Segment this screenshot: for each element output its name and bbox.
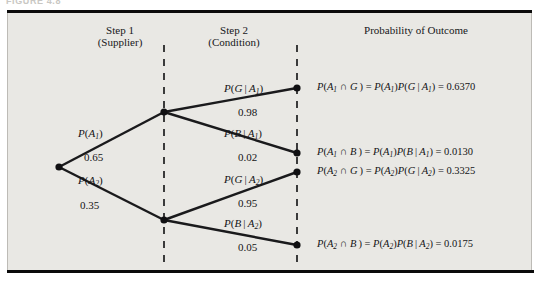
node-a1-g	[293, 84, 300, 91]
branch-label-b-given-a1: P(B | A1)	[224, 128, 262, 139]
outcome-equation-a1-g: P(A1 ∩ G ) = P(A1)P(G | A1) = 0.6370	[317, 82, 475, 93]
node-a2-b	[293, 241, 300, 248]
branch-value-a2: 0.35	[80, 200, 99, 211]
node-a1-b	[293, 149, 300, 156]
branch-label-g-given-a2: P(G | A2)	[224, 174, 263, 185]
branch-label-a1: P(A1)	[78, 128, 103, 139]
edge-root-to-a2	[59, 167, 164, 220]
branch-value-a1: 0.65	[84, 152, 103, 163]
outcome-equation-a1-b: P(A1 ∩ B ) = P(A1)P(B | A1) = 0.0130	[317, 147, 473, 158]
branch-label-b-given-a2: P(B | A2)	[224, 218, 262, 229]
node-a2-g	[293, 168, 300, 175]
branch-value-b-given-a2: 0.05	[238, 242, 257, 253]
root-node	[55, 163, 62, 170]
edge-root-to-a1	[59, 112, 164, 167]
branch-label-g-given-a1: P(G | A1)	[224, 83, 263, 94]
branch-value-g-given-a1: 0.98	[238, 107, 257, 118]
outcome-equation-a2-b: P(A2 ∩ B ) = P(A2)P(B | A2) = 0.0175	[317, 239, 473, 250]
branch-value-b-given-a1: 0.02	[238, 152, 257, 163]
outcome-equation-a2-g: P(A2 ∩ G ) = P(A2)P(G | A2) = 0.3325	[317, 166, 475, 177]
node-a1	[160, 108, 167, 115]
node-a2	[160, 216, 167, 223]
branch-label-a2: P(A2)	[78, 175, 103, 186]
branch-value-g-given-a2: 0.95	[238, 198, 257, 209]
